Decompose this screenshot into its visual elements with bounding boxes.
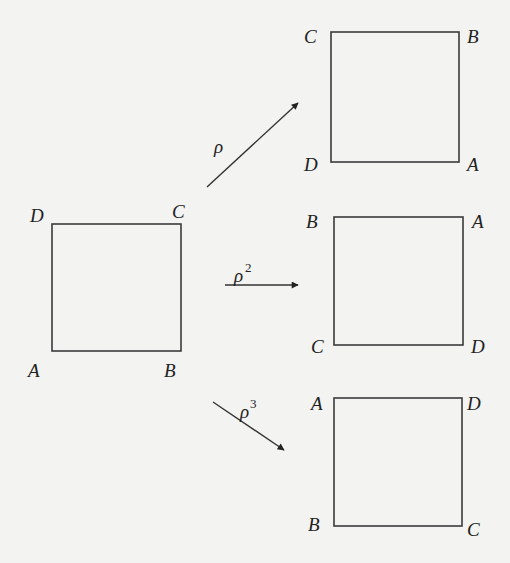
arrow-rho: ρ bbox=[207, 103, 298, 187]
label-r3-bottom-left: B bbox=[308, 514, 320, 535]
label-source-bottom-left: A bbox=[26, 360, 40, 381]
label-r1-bottom-right: A bbox=[465, 154, 479, 175]
label-r2-top-right: A bbox=[470, 211, 484, 232]
label-r3-top-left: A bbox=[309, 393, 323, 414]
label-r1-top-left: C bbox=[304, 26, 317, 47]
label-r3-bottom-right: C bbox=[467, 519, 480, 540]
label-r2-bottom-left: C bbox=[311, 336, 324, 357]
label-source-bottom-right: B bbox=[164, 360, 176, 381]
arrow-rho-cubed: ρ 3 bbox=[213, 396, 284, 450]
label-r1-top-right: B bbox=[467, 26, 479, 47]
label-r2-top-left: B bbox=[306, 211, 318, 232]
rotation-diagram: D C A B ρ C B D A ρ 2 B A C D ρ 3 A D bbox=[0, 0, 510, 563]
rho2-label: ρ bbox=[233, 265, 243, 286]
result-square-rho-squared: B A C D bbox=[306, 211, 485, 357]
label-r1-bottom-left: D bbox=[303, 154, 318, 175]
label-r3-top-right: D bbox=[466, 393, 481, 414]
source-square: D C A B bbox=[26, 201, 185, 381]
rho2-exponent: 2 bbox=[245, 260, 252, 275]
arrow-rho-squared: ρ 2 bbox=[225, 260, 298, 286]
result-square-rho-cubed: A D B C bbox=[308, 393, 481, 540]
rho3-exponent: 3 bbox=[250, 396, 257, 411]
rho3-label: ρ bbox=[239, 401, 249, 422]
rho-label: ρ bbox=[213, 136, 223, 157]
label-source-top-right: C bbox=[172, 201, 185, 222]
result-square-rho: C B D A bbox=[303, 26, 479, 175]
label-source-top-left: D bbox=[29, 205, 44, 226]
label-r2-bottom-right: D bbox=[470, 336, 485, 357]
